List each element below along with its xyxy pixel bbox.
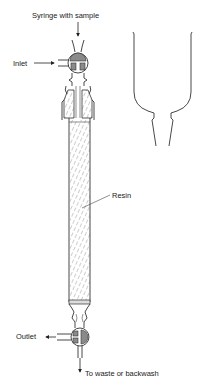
resin-label: Resin <box>112 191 131 200</box>
ion-exchange-column-diagram: Syringe with sample Inlet <box>0 0 202 389</box>
column-body <box>69 118 90 302</box>
drain-tube <box>78 346 82 358</box>
inlet-label: Inlet <box>13 59 28 68</box>
inlet-tube <box>58 60 69 66</box>
lower-connector <box>72 312 87 328</box>
reservoir-funnel <box>133 32 192 146</box>
syringe-label: Syringe with sample <box>32 11 99 20</box>
outlet-tube <box>57 334 71 340</box>
inlet-valve <box>68 53 88 73</box>
outlet-valve <box>71 328 89 346</box>
waste-label: To waste or backwash <box>85 369 159 378</box>
outlet-label: Outlet <box>16 332 37 341</box>
bottom-frit <box>69 300 90 312</box>
syringe-port <box>72 40 84 52</box>
ground-glass-joint <box>62 86 94 120</box>
